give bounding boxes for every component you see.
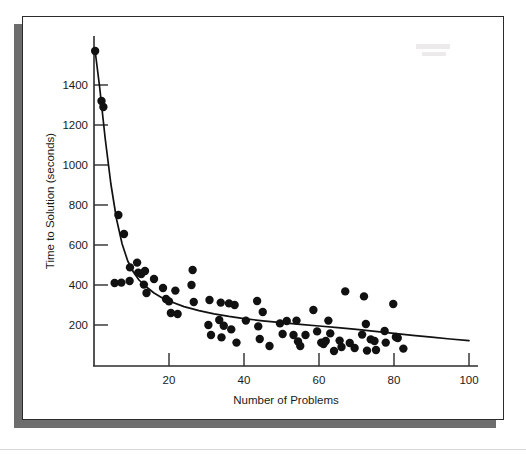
data-point	[380, 327, 388, 335]
x-axis-ticks	[169, 353, 469, 366]
axes	[93, 36, 478, 366]
y-tick-label: 400	[69, 279, 88, 291]
data-point	[173, 310, 181, 318]
x-tick-label: 40	[238, 374, 251, 386]
data-point	[171, 286, 179, 294]
data-point	[399, 344, 407, 352]
y-tick-label: 800	[69, 199, 88, 211]
x-tick-label: 80	[388, 374, 401, 386]
data-point	[313, 327, 321, 335]
data-point	[389, 300, 397, 308]
data-point	[324, 316, 332, 324]
data-point	[350, 344, 358, 352]
data-point	[165, 297, 173, 305]
data-point	[309, 306, 317, 314]
data-point	[358, 330, 366, 338]
y-axis-tick-labels: 200400600800100012001400	[62, 79, 88, 331]
y-tick-label: 1200	[62, 119, 88, 131]
data-point	[382, 338, 390, 346]
scan-artifact	[416, 44, 450, 56]
data-point	[204, 321, 212, 329]
data-point	[283, 317, 291, 325]
data-point	[227, 325, 235, 333]
figure-container: 200400600800100012001400 20406080100 Num…	[0, 0, 526, 460]
y-tick-label: 600	[69, 239, 88, 251]
data-point	[370, 337, 378, 345]
data-point	[322, 337, 330, 345]
data-point	[140, 280, 148, 288]
data-point	[254, 322, 262, 330]
data-point	[126, 263, 134, 271]
data-point	[217, 298, 225, 306]
data-point	[372, 346, 380, 354]
data-point	[259, 308, 267, 316]
data-point	[278, 330, 286, 338]
data-point	[301, 331, 309, 339]
data-point	[217, 333, 225, 341]
data-point	[141, 267, 149, 275]
data-point	[91, 47, 99, 55]
data-point	[232, 338, 240, 346]
page-bottom-rule	[0, 449, 526, 450]
data-point	[205, 296, 213, 304]
data-point	[360, 292, 368, 300]
data-point	[187, 281, 195, 289]
x-axis-tick-labels: 20406080100	[163, 374, 479, 386]
x-tick-label: 20	[163, 374, 176, 386]
y-axis-ticks	[94, 85, 108, 325]
fitted-curve	[95, 51, 469, 341]
data-point	[190, 298, 198, 306]
data-point	[256, 335, 264, 343]
data-point	[362, 320, 370, 328]
data-point	[150, 275, 158, 283]
data-point	[120, 230, 128, 238]
scatter-plot: 200400600800100012001400 20406080100 Num…	[0, 0, 526, 460]
x-axis-title: Number of Problems	[233, 394, 339, 406]
y-tick-label: 200	[69, 319, 88, 331]
data-point	[253, 297, 261, 305]
data-point	[114, 211, 122, 219]
x-tick-label: 100	[459, 374, 478, 386]
data-point	[296, 342, 304, 350]
data-point	[220, 322, 228, 330]
data-point	[330, 347, 338, 355]
data-point	[207, 331, 215, 339]
data-point	[242, 316, 250, 324]
y-axis-title: Time to Solution (seconds)	[44, 133, 56, 270]
data-point	[337, 343, 345, 351]
y-tick-label: 1400	[62, 79, 88, 91]
data-point	[133, 258, 141, 266]
data-point	[142, 289, 150, 297]
data-point	[363, 346, 371, 354]
data-point	[117, 278, 125, 286]
x-tick-label: 60	[313, 374, 326, 386]
data-point	[292, 316, 300, 324]
data-point	[326, 329, 334, 337]
data-point	[394, 334, 402, 342]
y-tick-label: 1000	[62, 159, 88, 171]
data-point	[188, 266, 196, 274]
data-point	[99, 103, 107, 111]
data-point	[125, 277, 133, 285]
data-points	[91, 47, 408, 355]
data-point	[265, 342, 273, 350]
data-point	[159, 284, 167, 292]
data-point	[230, 301, 238, 309]
data-point	[341, 287, 349, 295]
